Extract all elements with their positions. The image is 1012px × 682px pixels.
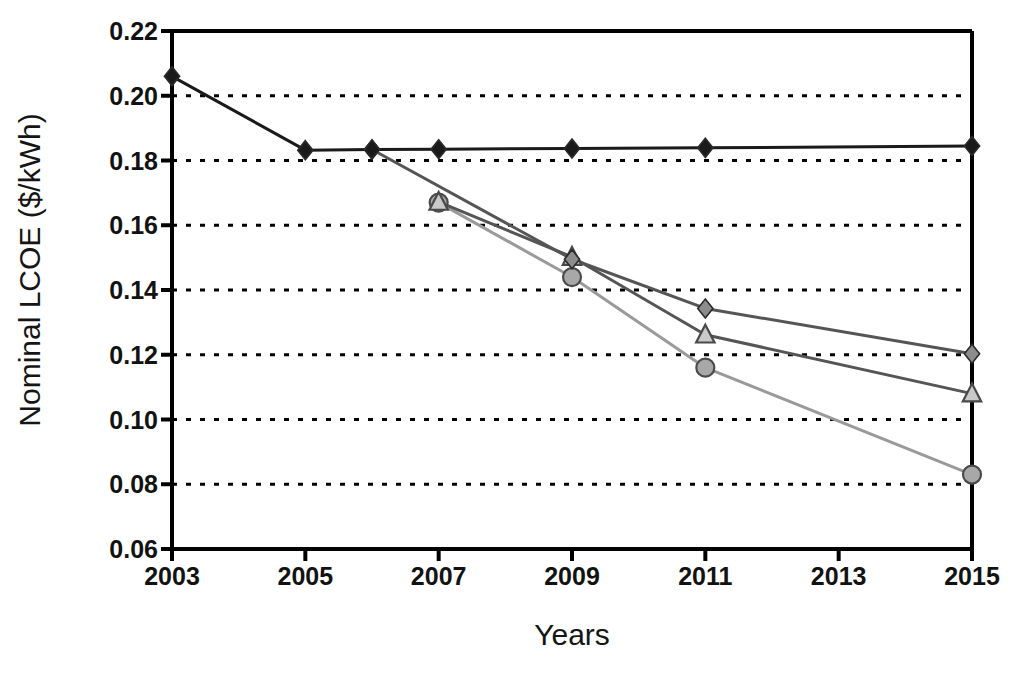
data-point-diamond bbox=[564, 139, 579, 158]
x-tick-label: 2005 bbox=[245, 562, 365, 591]
data-point-diamond bbox=[298, 141, 313, 160]
plot-svg bbox=[172, 31, 972, 549]
data-point-triangle bbox=[696, 325, 714, 343]
x-tick-label: 2013 bbox=[779, 562, 899, 591]
data-point-diamond bbox=[431, 140, 446, 159]
plot-area bbox=[172, 31, 972, 549]
x-tick-label: 2011 bbox=[645, 562, 765, 591]
x-tick-label: 2009 bbox=[512, 562, 632, 591]
data-point-diamond bbox=[698, 299, 713, 318]
data-point-circle bbox=[696, 359, 714, 377]
chart-container: Nominal LCOE ($/kWh) 0.060.080.100.120.1… bbox=[0, 0, 1012, 682]
data-point-circle bbox=[963, 466, 981, 484]
series-line-gray-diamond-series bbox=[372, 149, 972, 353]
data-point-diamond bbox=[698, 138, 713, 157]
data-point-circle bbox=[563, 268, 581, 286]
x-tick-label: 2015 bbox=[912, 562, 1012, 591]
x-axis-title: Years bbox=[172, 618, 972, 652]
axis-frame bbox=[172, 31, 972, 549]
x-tick-label: 2003 bbox=[112, 562, 232, 591]
axis-ticks bbox=[161, 31, 972, 561]
x-tick-label: 2007 bbox=[379, 562, 499, 591]
data-point-diamond bbox=[364, 140, 379, 159]
data-point-diamond bbox=[564, 250, 579, 269]
